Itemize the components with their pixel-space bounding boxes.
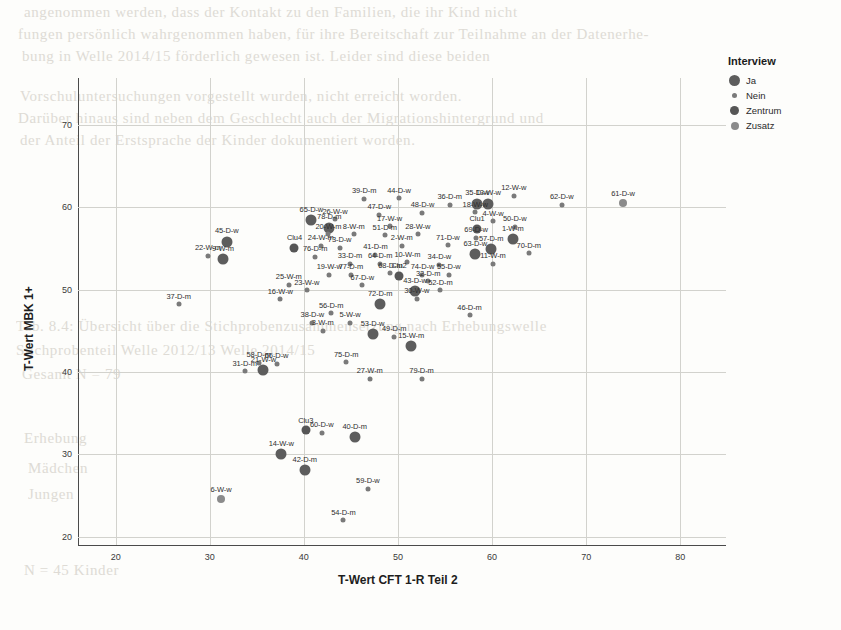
data-point[interactable] xyxy=(329,311,334,316)
data-point[interactable] xyxy=(367,376,372,381)
data-point[interactable] xyxy=(414,296,419,301)
data-point[interactable] xyxy=(375,299,386,310)
gridline-horizontal xyxy=(78,290,726,291)
y-tick-label: 40 xyxy=(52,367,72,377)
data-point[interactable] xyxy=(344,360,349,365)
data-point[interactable] xyxy=(205,253,210,258)
data-point-label: 27-W-m xyxy=(357,366,383,375)
data-point[interactable] xyxy=(392,334,397,339)
data-point-label: 30-W-w xyxy=(404,286,429,295)
legend-item-label: Nein xyxy=(746,90,766,101)
data-point[interactable] xyxy=(304,288,309,293)
data-point[interactable] xyxy=(217,254,228,265)
legend-title: Interview xyxy=(728,55,781,67)
scatter-plot: 20304050607080203040506070 39-D-m44-D-w3… xyxy=(0,0,841,630)
data-point[interactable] xyxy=(526,251,531,256)
data-point[interactable] xyxy=(396,196,401,201)
data-point[interactable] xyxy=(349,432,360,443)
data-point-label: 45-D-w xyxy=(215,226,239,235)
x-tick-label: 80 xyxy=(675,552,685,562)
data-point[interactable] xyxy=(176,302,181,307)
x-tick-label: 50 xyxy=(393,552,403,562)
data-point[interactable] xyxy=(348,320,353,325)
data-point-label: 36-D-m xyxy=(438,192,462,201)
legend-entries: JaNeinZentrumZusatz xyxy=(728,73,781,133)
data-point[interactable] xyxy=(382,233,387,238)
data-point[interactable] xyxy=(394,271,403,280)
data-point[interactable] xyxy=(341,518,346,523)
data-point[interactable] xyxy=(320,328,325,333)
data-point[interactable] xyxy=(447,202,452,207)
data-point[interactable] xyxy=(313,254,318,259)
data-point[interactable] xyxy=(362,196,367,201)
data-point[interactable] xyxy=(491,261,496,266)
data-point[interactable] xyxy=(491,219,496,224)
legend-item-label: Ja xyxy=(746,75,756,86)
gridline-vertical xyxy=(116,78,117,545)
data-point-label: 64-D-m xyxy=(368,251,392,260)
data-point-label: 44-D-w xyxy=(387,186,411,195)
data-point[interactable] xyxy=(337,245,342,250)
legend-marker-icon xyxy=(730,106,739,115)
x-tick-label: 20 xyxy=(111,552,121,562)
gridline-vertical xyxy=(492,78,493,545)
data-point-label: Clu1 xyxy=(470,214,485,223)
data-point[interactable] xyxy=(559,202,564,207)
data-point-label: 14-W-w xyxy=(269,439,294,448)
data-point[interactable] xyxy=(420,210,425,215)
data-point-label: 4-W-w xyxy=(483,209,504,218)
data-point[interactable] xyxy=(276,449,287,460)
data-point-label: 10-W-m xyxy=(394,250,420,259)
data-point[interactable] xyxy=(258,365,269,376)
legend-item-zentrum[interactable]: Zentrum xyxy=(728,103,781,118)
data-point-label: 46-D-m xyxy=(457,303,481,312)
data-point-label: 52-D-m xyxy=(428,278,452,287)
data-point-label: 43-D-w xyxy=(403,276,427,285)
data-point[interactable] xyxy=(360,283,365,288)
data-point-label: 62-D-w xyxy=(550,192,574,201)
data-point-label: 5-W-w xyxy=(339,310,360,319)
legend-marker-icon xyxy=(731,122,739,130)
data-point[interactable] xyxy=(278,297,283,302)
y-tick-label: 20 xyxy=(52,532,72,542)
data-point-label: 33-D-m xyxy=(338,251,362,260)
legend-item-ja[interactable]: Ja xyxy=(728,73,781,88)
data-point[interactable] xyxy=(419,376,424,381)
data-point-label: 11-W-m xyxy=(480,251,505,260)
data-point-label: 56-D-m xyxy=(319,301,343,310)
data-point[interactable] xyxy=(301,426,310,435)
data-point-label: 67-D-w xyxy=(350,273,374,282)
data-point[interactable] xyxy=(470,249,481,260)
data-point[interactable] xyxy=(351,232,356,237)
data-point[interactable] xyxy=(415,232,420,237)
legend-marker-icon xyxy=(732,93,737,98)
data-point[interactable] xyxy=(438,288,443,293)
data-point[interactable] xyxy=(446,272,451,277)
data-point[interactable] xyxy=(399,243,404,248)
data-point[interactable] xyxy=(406,341,417,352)
data-point[interactable] xyxy=(299,465,310,476)
data-point-label: 41-D-m xyxy=(363,242,387,251)
gridline-vertical xyxy=(586,78,587,545)
data-point[interactable] xyxy=(217,495,225,503)
data-point[interactable] xyxy=(445,243,450,248)
data-point-label: 28-W-w xyxy=(405,222,430,231)
data-point[interactable] xyxy=(619,199,627,207)
data-point[interactable] xyxy=(327,272,332,277)
data-point[interactable] xyxy=(367,329,378,340)
data-point-label: 20-W-m xyxy=(315,222,341,231)
legend-item-label: Zentrum xyxy=(746,105,781,116)
data-point[interactable] xyxy=(388,271,393,276)
legend-item-label: Zusatz xyxy=(746,120,775,131)
legend-item-zusatz[interactable]: Zusatz xyxy=(728,118,781,133)
data-point[interactable] xyxy=(511,193,516,198)
legend-item-nein[interactable]: Nein xyxy=(728,88,781,103)
legend-marker-icon xyxy=(729,75,740,86)
data-point[interactable] xyxy=(319,430,324,435)
data-point[interactable] xyxy=(365,486,370,491)
data-point[interactable] xyxy=(242,369,247,374)
data-point[interactable] xyxy=(290,243,299,252)
gridline-horizontal xyxy=(78,372,726,373)
data-point-label: 16-W-w xyxy=(268,287,293,296)
data-point[interactable] xyxy=(467,313,472,318)
